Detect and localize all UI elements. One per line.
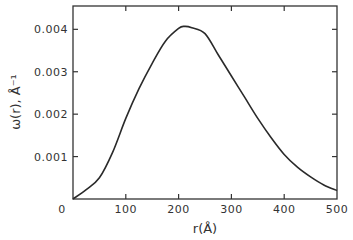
x-tick-label: 400 bbox=[273, 203, 296, 216]
line-chart: 0100200300400500 0.0010.0020.0030.004 r(… bbox=[0, 0, 353, 240]
y-axis: 0.0010.0020.0030.004 bbox=[34, 23, 337, 163]
x-tick-label: 0 bbox=[58, 203, 66, 216]
x-tick-label: 300 bbox=[220, 203, 243, 216]
x-tick-label: 500 bbox=[326, 203, 349, 216]
y-tick-label: 0.003 bbox=[34, 66, 68, 79]
y-tick-label: 0.002 bbox=[34, 108, 68, 121]
y-tick-label: 0.004 bbox=[34, 23, 68, 36]
data-line bbox=[73, 26, 337, 199]
plot-frame bbox=[73, 6, 337, 199]
y-axis-title: ω(r), Å⁻¹ bbox=[8, 74, 23, 130]
x-axis: 0100200300400500 bbox=[58, 6, 348, 216]
x-tick-label: 200 bbox=[167, 203, 190, 216]
x-tick-label: 100 bbox=[115, 203, 138, 216]
y-tick-label: 0.001 bbox=[34, 151, 68, 164]
x-axis-title: r(Å) bbox=[193, 221, 217, 236]
